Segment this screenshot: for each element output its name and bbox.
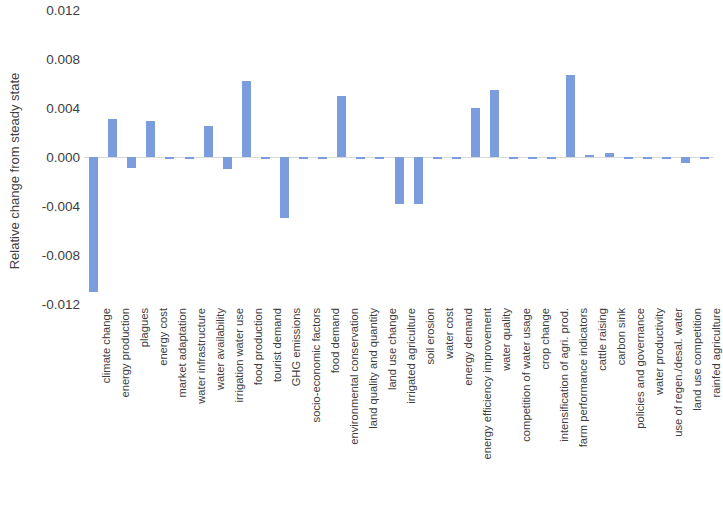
bar bbox=[223, 157, 232, 169]
x-axis-tick-label: energy cost bbox=[156, 304, 170, 514]
x-axis-tick-label: land use change bbox=[385, 304, 399, 514]
bar bbox=[452, 157, 461, 159]
x-axis-tick-label: land quality and quantity bbox=[366, 304, 380, 514]
x-axis-tick-label: water infrastructure bbox=[194, 304, 208, 514]
x-axis-tick-label: climate change bbox=[99, 304, 113, 514]
x-axis-tick-label: tourist demand bbox=[270, 304, 284, 514]
x-axis-tick-label: GHG emissions bbox=[289, 304, 303, 514]
x-axis-tick-label: food production bbox=[251, 304, 265, 514]
x-axis-tick-label: water availability bbox=[213, 304, 227, 514]
x-axis-tick-label: intensification of agri. prod. bbox=[557, 304, 571, 514]
x-axis-tick-label: socio-economic factors bbox=[309, 304, 323, 514]
y-axis-tick-label: -0.008 bbox=[24, 248, 80, 263]
bar bbox=[414, 157, 423, 204]
y-axis-tick-label: 0.008 bbox=[24, 52, 80, 67]
y-axis-tick-label: -0.012 bbox=[24, 297, 80, 312]
x-axis-tick-label: water quality bbox=[499, 304, 513, 514]
bar bbox=[337, 96, 346, 157]
bar bbox=[395, 157, 404, 204]
y-axis-tick-labels: 0.0120.0080.0040.000-0.004-0.008-0.012 bbox=[22, 0, 80, 516]
x-axis-tick-label: use of regen./desal. water bbox=[671, 304, 685, 514]
bar bbox=[146, 121, 155, 157]
x-axis-tick-label: irrigation water use bbox=[232, 304, 246, 514]
x-axis-tick-label: farm performance indicators bbox=[576, 304, 590, 514]
bar bbox=[566, 75, 575, 157]
x-axis-tick-label: market adaptation bbox=[175, 304, 189, 514]
bar bbox=[204, 126, 213, 157]
bar bbox=[356, 157, 365, 159]
bar bbox=[681, 157, 690, 163]
bar bbox=[490, 90, 499, 157]
x-axis-tick-label: cattle raising bbox=[595, 304, 609, 514]
x-axis-tick-label: irrigated agriculture bbox=[404, 304, 418, 514]
x-axis-tick-label: environmental conservation bbox=[347, 304, 361, 514]
bar bbox=[585, 155, 594, 157]
bar bbox=[299, 157, 308, 159]
x-axis-tick-label: energy demand bbox=[461, 304, 475, 514]
x-axis-tick-label: competition of water usage bbox=[519, 304, 533, 514]
x-axis-tick-label: carbon sink bbox=[614, 304, 628, 514]
bar bbox=[127, 157, 136, 168]
bar bbox=[547, 157, 556, 159]
x-axis-tick-label: plagues bbox=[137, 304, 151, 514]
bar bbox=[700, 157, 709, 159]
x-axis-tick-label: food demand bbox=[328, 304, 342, 514]
bar bbox=[280, 157, 289, 218]
bar bbox=[662, 157, 671, 159]
bar bbox=[375, 157, 384, 159]
y-axis-tick-label: 0.000 bbox=[24, 150, 80, 165]
bar bbox=[605, 153, 614, 157]
bar bbox=[185, 157, 194, 159]
y-axis-tick-label: 0.004 bbox=[24, 101, 80, 116]
bar bbox=[89, 157, 98, 292]
bar bbox=[433, 157, 442, 159]
x-axis-tick-label: energy production bbox=[118, 304, 132, 514]
y-axis-tick-label: 0.012 bbox=[24, 3, 80, 18]
x-axis-tick-label: land use competition bbox=[690, 304, 704, 514]
x-axis-tick-label: energy efficiency improvement bbox=[480, 304, 494, 514]
x-axis-tick-labels: climate changeenergy productionplaguesen… bbox=[84, 304, 714, 516]
x-axis-tick-label: policies and governance bbox=[633, 304, 647, 514]
bar bbox=[471, 108, 480, 157]
x-axis-tick-label: soil erosion bbox=[423, 304, 437, 514]
x-axis-tick-label: crop change bbox=[538, 304, 552, 514]
bar bbox=[261, 157, 270, 159]
y-axis-tick-label: -0.004 bbox=[24, 199, 80, 214]
x-axis-tick-label: water productivity bbox=[652, 304, 666, 514]
bar bbox=[528, 157, 537, 159]
plot-area bbox=[84, 10, 714, 304]
x-axis-tick-label: rainfed agriculture bbox=[709, 304, 723, 514]
bar bbox=[643, 157, 652, 159]
bar bbox=[318, 157, 327, 159]
bar bbox=[108, 119, 117, 157]
bar bbox=[242, 81, 251, 157]
x-axis-tick-label: water cost bbox=[442, 304, 456, 514]
bar bbox=[509, 157, 518, 159]
bar bbox=[165, 157, 174, 159]
bar bbox=[624, 157, 633, 159]
